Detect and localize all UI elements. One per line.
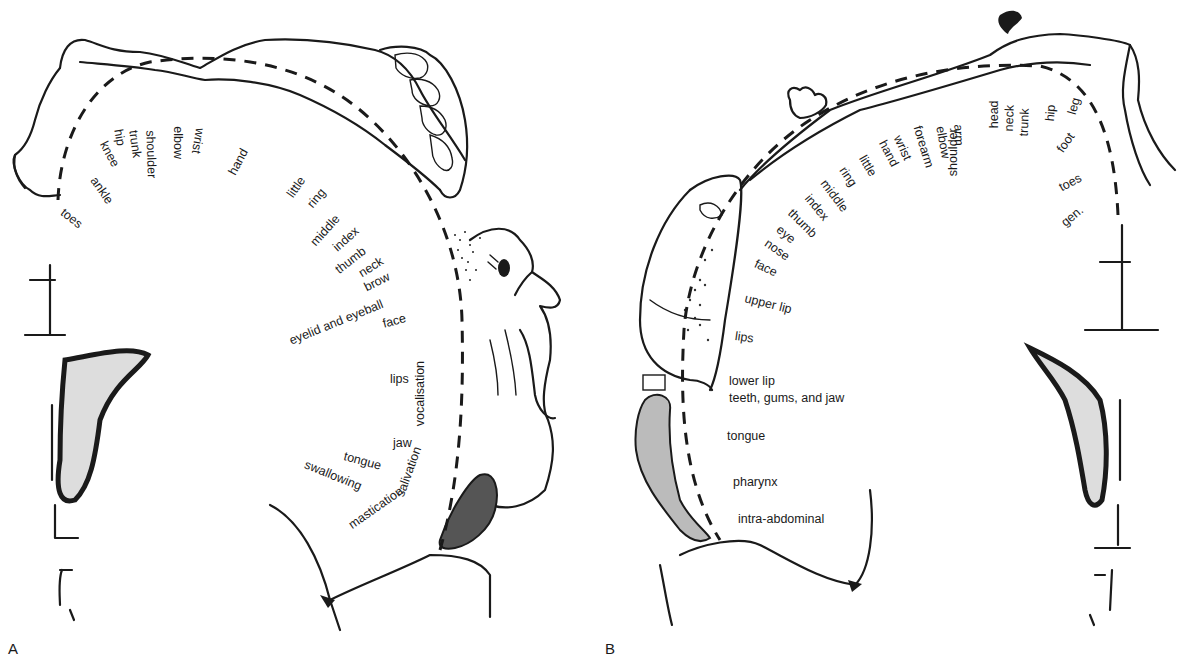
homunculus-illustration: [0, 0, 1185, 663]
panel-b-letter: B: [605, 640, 615, 657]
motor-region-label: elbow: [172, 126, 185, 159]
sensory-region-label: hip: [1044, 104, 1058, 122]
motor-region-label: trunk: [127, 129, 143, 158]
sensory-region-label: tongue: [727, 430, 765, 443]
motor-function-label: vocalisation: [414, 361, 427, 426]
sensory-region-label: lips: [734, 330, 754, 345]
sensory-region-label: neck: [1003, 105, 1016, 132]
sensory-region-label: trunk: [1018, 108, 1031, 136]
sensory-region-label: head: [988, 100, 1001, 128]
panel-b-drawing: [635, 11, 1175, 625]
sensory-region-label: arm: [952, 124, 965, 146]
motor-region-label: hip: [112, 128, 127, 147]
panel-a-letter: A: [8, 640, 18, 657]
motor-region-label: shoulder: [144, 130, 158, 178]
motor-region-label: lips: [390, 373, 409, 386]
sensory-region-label: lower lip: [729, 375, 775, 388]
sensory-region-label: intra-abdominal: [738, 513, 824, 526]
sensory-region-label: pharynx: [733, 476, 777, 489]
sensory-region-label: teeth, gums, and jaw: [729, 392, 844, 405]
